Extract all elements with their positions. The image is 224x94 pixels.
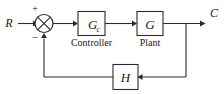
feedback-symbol: H	[120, 70, 131, 85]
controller-subscript: c	[97, 25, 101, 34]
summing-junction[interactable]	[35, 15, 53, 33]
plant-block[interactable]: G	[137, 12, 163, 36]
plant-symbol: G	[145, 17, 155, 32]
input-signal-label: R	[4, 16, 13, 30]
sum-plus-sign: +	[32, 3, 38, 14]
block-diagram-canvas: + – G c Controller G Plant H R C	[0, 0, 224, 94]
controller-block[interactable]: G c	[78, 12, 105, 36]
wire-sum-to-controller	[53, 21, 78, 27]
controller-caption: Controller	[71, 37, 113, 48]
plant-caption: Plant	[140, 37, 161, 48]
wire-controller-to-plant	[105, 21, 137, 27]
sum-minus-sign: –	[32, 31, 39, 42]
wire-feedback-into-h	[138, 74, 187, 80]
output-signal-label: C	[210, 6, 219, 20]
block-diagram-svg: + – G c Controller G Plant H R C	[0, 0, 224, 94]
wire-plant-to-output	[163, 21, 206, 27]
feedback-block[interactable]: H	[113, 65, 138, 90]
wire-feedback-to-sum	[41, 33, 47, 77]
